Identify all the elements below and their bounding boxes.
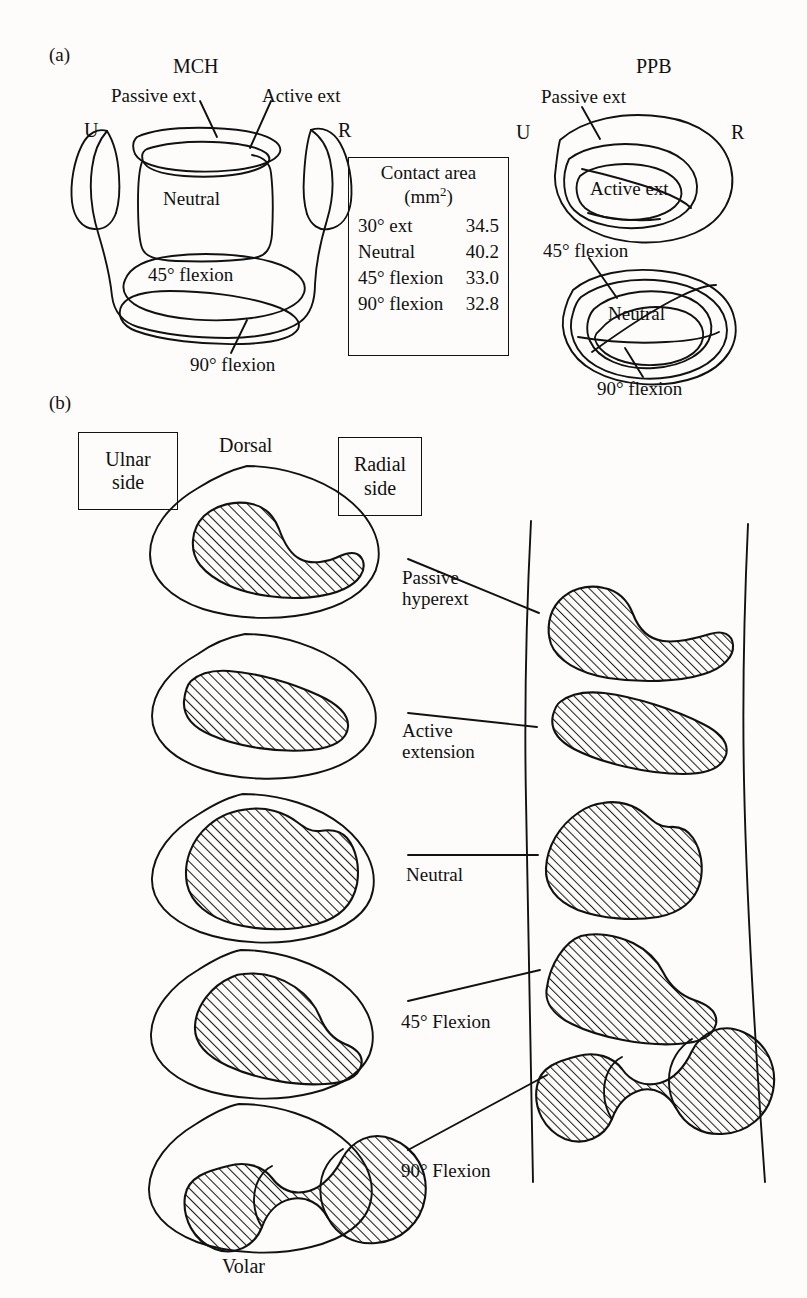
radial-side-box: Radial side: [338, 437, 422, 516]
ulnar-side-box: Ulnar side: [78, 432, 178, 510]
contact-area-title-line1: Contact area: [349, 162, 508, 184]
row-label-neutral: Neutral: [406, 864, 526, 885]
contact-area-rows: 30° ext 34.5 Neutral 40.2 45° flexion 33…: [349, 213, 508, 317]
table-row: 90° flexion 32.8: [349, 291, 508, 317]
row-label-line1: 90° Flexion: [401, 1160, 541, 1181]
row-label-line1: Active: [402, 720, 528, 741]
mm2-suffix: ): [447, 187, 453, 208]
mch-active-ext-label: Active ext: [262, 85, 341, 106]
mch-title: MCH: [173, 55, 219, 77]
dorsal-label: Dorsal: [219, 434, 272, 456]
ppb-ulnar-marker: U: [516, 121, 530, 143]
section-left-active-extension: [152, 634, 376, 779]
ppb-radial-marker: R: [731, 121, 744, 143]
row-label: 45° flexion: [358, 267, 443, 289]
contact-area-title-line2: (mm2): [349, 184, 508, 209]
table-row: 45° flexion 33.0: [349, 265, 508, 291]
contact-area-title: Contact area (mm2): [349, 158, 508, 209]
mch-radial-marker: R: [338, 119, 351, 141]
panel-b-tag: (b): [49, 392, 71, 413]
volar-label: Volar: [222, 1255, 265, 1277]
figure-root: (a) (b) MCH PPB Passive ext Active ext U…: [0, 0, 807, 1298]
mch-neutral-label: Neutral: [163, 188, 220, 209]
row-label: Neutral: [358, 241, 415, 263]
section-left-flexion90: [149, 1104, 426, 1253]
panel-a-tag: (a): [49, 44, 70, 65]
table-row: Neutral 40.2: [349, 239, 508, 265]
contact-area-table: Contact area (mm2) 30° ext 34.5 Neutral …: [348, 157, 509, 356]
section-left-neutral: [152, 794, 374, 943]
ppb-title: PPB: [636, 55, 672, 77]
mch-passive-ext-label: Passive ext: [111, 85, 196, 106]
radial-side-line1: Radial: [354, 453, 406, 476]
ppb-flexion90-label: 90° flexion: [597, 378, 682, 399]
mch-diagram: [71, 101, 351, 353]
mch-ulnar-marker: U: [84, 119, 98, 141]
row-label: 90° flexion: [358, 293, 443, 315]
ppb-neutral-label: Neutral: [608, 303, 665, 324]
row-label: 30° ext: [358, 215, 413, 237]
row-value: 34.5: [466, 215, 499, 237]
row-label-flexion45: 45° Flexion: [401, 1011, 541, 1032]
contact-patches-right: [536, 587, 774, 1142]
ulnar-side-line1: Ulnar: [105, 448, 151, 471]
mch-flexion90-label: 90° flexion: [190, 354, 275, 375]
ppb-flexion45-label: 45° flexion: [543, 240, 628, 261]
row-value: 40.2: [466, 241, 499, 263]
section-left-flexion45: [151, 950, 373, 1099]
row-label-line1: Passive: [402, 567, 512, 588]
ulnar-side-line2: side: [105, 471, 151, 494]
row-label-flexion90: 90° Flexion: [401, 1160, 541, 1181]
radial-side-line2: side: [354, 477, 406, 500]
table-row: 30° ext 34.5: [349, 213, 508, 239]
row-label-line1: Neutral: [406, 864, 526, 885]
row-label-passive-hyperext: Passive hyperext: [402, 567, 512, 610]
row-label-active-extension: Active extension: [402, 720, 528, 763]
row-label-line2: hyperext: [402, 588, 512, 609]
row-value: 32.8: [466, 293, 499, 315]
row-label-line1: 45° Flexion: [401, 1011, 541, 1032]
ppb-active-ext-label: Active ext: [590, 178, 669, 199]
row-value: 33.0: [466, 267, 499, 289]
row-label-line2: extension: [402, 741, 528, 762]
mch-flexion45-label: 45° flexion: [148, 264, 233, 285]
mm2-prefix: (mm: [404, 187, 440, 208]
ppb-passive-ext-label: Passive ext: [541, 86, 626, 107]
